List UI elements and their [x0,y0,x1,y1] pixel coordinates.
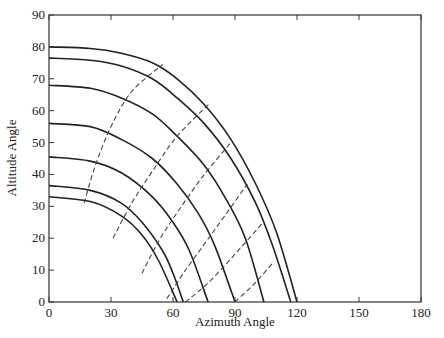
hour-line [235,264,272,302]
hour-line [167,184,248,299]
y-axis-label: Altitude Angle [4,119,19,196]
y-tick-label: 0 [39,294,46,309]
x-tick-label: 30 [105,305,118,320]
y-tick-label: 40 [32,166,45,181]
hour-line [84,64,163,203]
x-tick-label: 0 [46,305,53,320]
x-tick-label: 180 [411,305,431,320]
y-tick-label: 80 [32,39,45,54]
sun-path-chart: 0306090120150180 0102030405060708090 Azi… [0,0,444,338]
x-tick-label: 120 [287,305,307,320]
y-tick-label: 50 [32,135,45,150]
y-tick-label: 90 [32,7,45,22]
sun-path-curve [49,157,208,302]
sun-path-curve [49,197,177,302]
y-tick-label: 10 [32,262,45,277]
plot-lines [49,47,297,302]
x-axis-ticks: 0306090120150180 [46,15,431,320]
sun-path-curve [49,85,264,302]
y-tick-label: 60 [32,103,45,118]
y-tick-label: 20 [32,230,45,245]
x-tick-label: 150 [349,305,369,320]
x-axis-label: Azimuth Angle [195,314,275,329]
hour-line [113,103,210,239]
plot-frame [49,15,421,302]
y-tick-label: 70 [32,71,45,86]
sun-path-curve [49,47,297,302]
y-tick-label: 30 [32,198,45,213]
sun-path-curve [49,123,235,302]
y-axis-ticks: 0102030405060708090 [32,7,54,309]
x-tick-label: 60 [167,305,180,320]
hour-line [185,224,262,302]
sun-path-curve [49,186,183,302]
